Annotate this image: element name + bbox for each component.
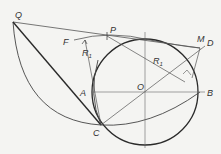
label-r1-left: R1 [82, 48, 92, 59]
label-b: B [207, 88, 213, 98]
label-f: F [63, 37, 69, 47]
label-o: O [137, 82, 144, 92]
large-arc-qc [13, 22, 200, 125]
arrow-r1 [82, 40, 87, 44]
label-p: P [110, 25, 116, 35]
diagram-canvas: Q P F R1 R1 M D A O B C [0, 0, 221, 154]
label-c: C [93, 128, 100, 138]
line-qc [13, 22, 101, 125]
line-qm [13, 22, 200, 48]
right-angle-mark [183, 70, 191, 75]
label-q: Q [15, 10, 22, 20]
arc-fpm [74, 35, 200, 48]
label-r1-right: R1 [153, 56, 163, 67]
geometry-diagram: Q P F R1 R1 M D A O B C [0, 0, 221, 154]
label-d: D [207, 38, 214, 48]
radius-r1-right [107, 36, 185, 82]
label-m: M [197, 34, 205, 44]
label-a: A [79, 88, 86, 98]
